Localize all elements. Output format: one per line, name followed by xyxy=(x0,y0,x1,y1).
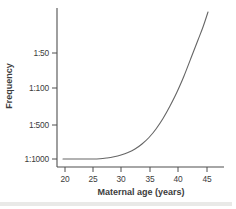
y-axis-title: Frequency xyxy=(4,63,14,109)
y-tick-label: 1:50 xyxy=(33,48,49,58)
x-tick-label: 40 xyxy=(174,174,183,184)
frequency-vs-maternal-age-figure: 1:501:1001:5001:1000202530354045 Frequen… xyxy=(0,0,236,209)
y-tick-label: 1:100 xyxy=(29,83,50,93)
x-tick-label: 20 xyxy=(61,174,70,184)
x-tick-label: 25 xyxy=(89,174,98,184)
y-tick-label: 1:500 xyxy=(29,120,50,130)
x-axis-title: Maternal age (years) xyxy=(97,187,184,197)
chart-canvas: 1:501:1001:5001:1000202530354045 Frequen… xyxy=(0,0,236,209)
x-tick-label: 35 xyxy=(146,174,155,184)
frequency-curve xyxy=(63,12,208,159)
x-tick-label: 45 xyxy=(203,174,212,184)
x-tick-label: 30 xyxy=(117,174,126,184)
y-tick-label: 1:1000 xyxy=(25,154,50,164)
bottom-edge-strip xyxy=(0,202,232,206)
